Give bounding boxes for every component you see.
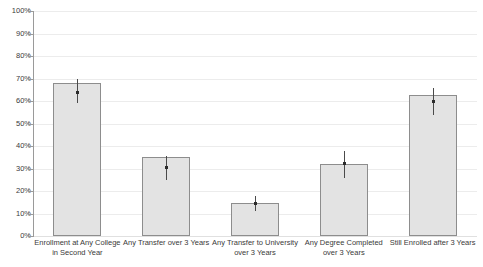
x-axis-label-line2: over 3 Years xyxy=(211,248,300,258)
y-axis-tick-label: 20% xyxy=(1,187,31,195)
x-axis-label: Any Transfer to Universityover 3 Years xyxy=(211,238,300,257)
gridline xyxy=(33,79,477,80)
y-axis-tick-mark xyxy=(28,214,33,215)
y-axis-tick-mark xyxy=(28,124,33,125)
y-axis-tick-mark xyxy=(28,101,33,102)
x-axis-label: Any Degree Completedover 3 Years xyxy=(299,238,388,257)
y-axis-line xyxy=(33,11,34,237)
x-axis-label-line2: in Second Year xyxy=(33,248,122,258)
y-axis-tick-mark xyxy=(28,56,33,57)
gridline xyxy=(33,56,477,57)
x-axis-labels: Enrollment at Any Collegein Second YearA… xyxy=(33,238,477,267)
y-axis-tick-label: 40% xyxy=(1,142,31,150)
gridline xyxy=(33,11,477,12)
y-axis-tick-label: 60% xyxy=(1,97,31,105)
x-axis-label-line2: over 3 Years xyxy=(299,248,388,258)
gridline xyxy=(33,236,477,237)
y-axis-tick-label: 100% xyxy=(1,7,31,15)
y-axis-tick-mark xyxy=(28,79,33,80)
y-axis-tick-label: 80% xyxy=(1,52,31,60)
y-axis-tick-mark xyxy=(28,236,33,237)
y-axis-labels: 100%90%80%70%60%50%40%30%20%10%0% xyxy=(0,0,31,267)
error-bar-marker xyxy=(76,91,79,94)
bar xyxy=(53,83,101,236)
y-axis-tick-mark xyxy=(28,11,33,12)
bar-chart: 100%90%80%70%60%50%40%30%20%10%0% Enroll… xyxy=(0,0,483,267)
error-bar-marker xyxy=(343,162,346,165)
error-bar-marker xyxy=(432,100,435,103)
y-axis-tick-mark xyxy=(28,34,33,35)
x-axis-label: Still Enrolled after 3 Years xyxy=(388,238,477,248)
gridline xyxy=(33,34,477,35)
y-axis-tick-mark xyxy=(28,146,33,147)
y-axis-tick-label: 0% xyxy=(1,232,31,240)
y-axis-tick-label: 90% xyxy=(1,30,31,38)
x-axis-label-line1: Still Enrolled after 3 Years xyxy=(388,238,477,248)
y-axis-tick-label: 50% xyxy=(1,120,31,128)
x-axis-label-line1: Any Transfer to University xyxy=(211,238,300,248)
x-axis-label: Any Transfer over 3 Years xyxy=(122,238,211,248)
bar xyxy=(409,95,457,236)
error-bar-marker xyxy=(254,202,257,205)
x-axis-label-line1: Any Degree Completed xyxy=(299,238,388,248)
y-axis-tick-mark xyxy=(28,169,33,170)
error-bar-marker xyxy=(165,166,168,169)
x-axis-label-line1: Enrollment at Any College xyxy=(33,238,122,248)
y-axis-tick-label: 70% xyxy=(1,75,31,83)
y-axis-tick-label: 30% xyxy=(1,165,31,173)
y-axis-tick-label: 10% xyxy=(1,210,31,218)
x-axis-label: Enrollment at Any Collegein Second Year xyxy=(33,238,122,257)
y-axis-tick-mark xyxy=(28,191,33,192)
plot-area xyxy=(33,11,477,236)
x-axis-label-line1: Any Transfer over 3 Years xyxy=(122,238,211,248)
